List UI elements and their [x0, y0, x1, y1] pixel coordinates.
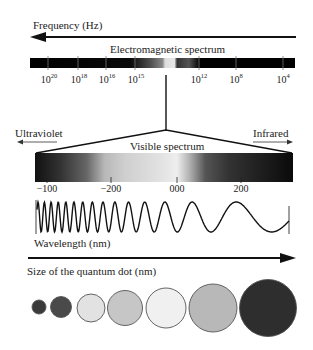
visible-tick-label: 200	[234, 183, 249, 194]
frequency-label: Frequency (Hz)	[33, 19, 102, 31]
em-tick-label: 1018	[71, 72, 88, 85]
em-tick-label: 1012	[191, 72, 208, 85]
frequency-arrow	[30, 32, 296, 42]
infrared-label: Infrared	[253, 127, 288, 139]
visible-tick-label: −200	[101, 183, 122, 194]
quantum-dot-size-arrow	[28, 253, 296, 263]
wavelength-label: Wavelength (nm)	[34, 237, 110, 249]
ultraviolet-arrow	[17, 140, 57, 145]
visible-spectrum-title: Visible spectrum	[130, 140, 204, 152]
visible-tick-label: 000	[170, 183, 185, 194]
em-tick-label: 1016	[99, 72, 116, 85]
em-spectrum-title: Electromagnetic spectrum	[110, 43, 225, 55]
em-spectrum-bar	[30, 58, 295, 68]
quantum-dots	[32, 280, 297, 337]
quantum-dot-circle	[240, 280, 297, 337]
em-tick-label: 104	[276, 72, 289, 85]
quantum-dot-circle	[146, 288, 186, 328]
ultraviolet-label: Ultraviolet	[15, 127, 63, 139]
quantum-dot-circle	[189, 284, 237, 332]
quantum-dot-circle	[51, 297, 72, 318]
quantum-dot-size-label: Size of the quantum dot (nm)	[27, 265, 156, 277]
quantum-dot-circle	[77, 294, 105, 322]
em-tick-label: 1015	[128, 72, 145, 85]
infrared-arrow	[253, 140, 293, 145]
quantum-dot-circle	[108, 291, 143, 326]
visible-tick-label: −100	[37, 183, 58, 194]
quantum-dot-circle	[32, 300, 46, 314]
wavelength-wave	[36, 200, 289, 234]
em-tick-label: 108	[229, 72, 242, 85]
visible-spectrum-bar	[35, 153, 293, 182]
em-tick-label: 1020	[41, 72, 58, 85]
